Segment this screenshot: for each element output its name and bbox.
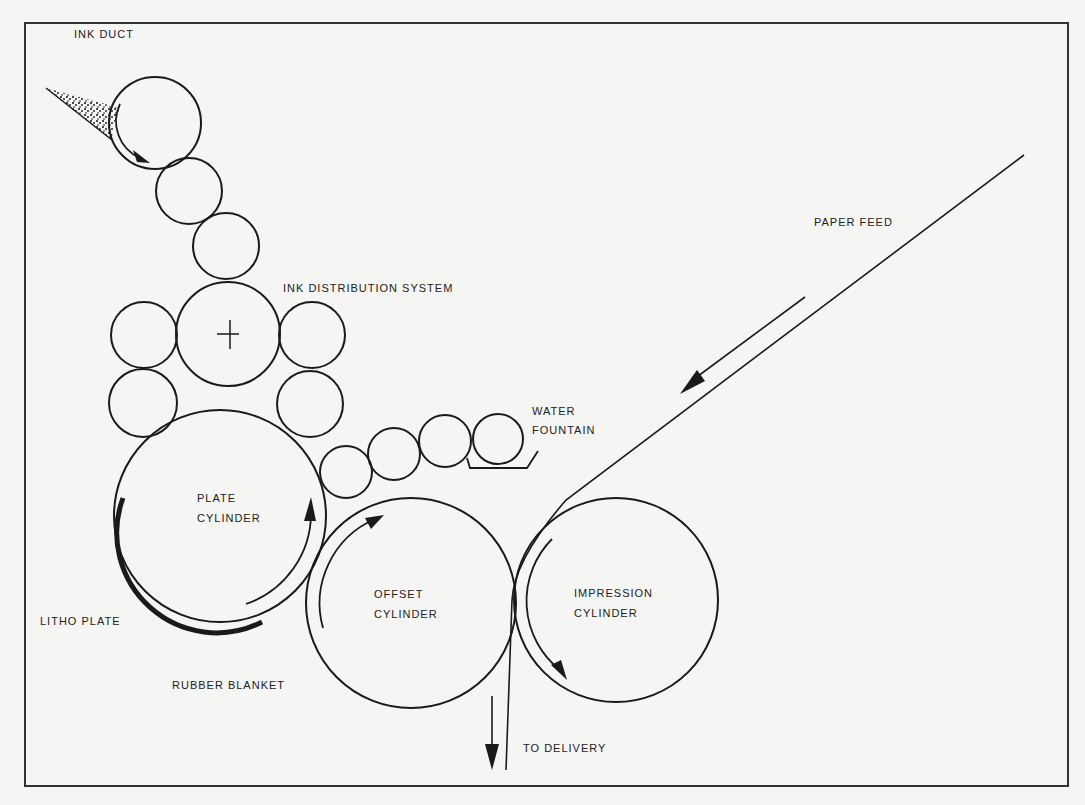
ink-duct-roller (109, 77, 201, 169)
ink-roller-left-lower (109, 369, 177, 437)
water-roller-2 (368, 428, 420, 480)
label-ink-duct: INK DUCT (74, 26, 134, 42)
arrowhead-icon (485, 744, 499, 770)
label-water-fountain-2: FOUNTAIN (532, 422, 595, 438)
water-roller-3 (419, 415, 471, 467)
label-plate-cylinder-2: CYLINDER (197, 510, 261, 526)
impression-rotation-arrow-icon (527, 539, 560, 670)
arrowhead-icon (304, 497, 316, 521)
ink-roller-left-upper (111, 302, 177, 368)
offset-cylinder (306, 498, 516, 708)
label-to-delivery: TO DELIVERY (523, 740, 606, 756)
ink-duct-rotation-arrow-icon (116, 104, 140, 158)
label-offset-cylinder-2: CYLINDER (374, 606, 438, 622)
ink-roller-3 (193, 213, 259, 279)
ink-roller-2 (156, 158, 222, 224)
offset-rotation-arrow-icon (320, 519, 375, 628)
ink-roller-right-upper (279, 302, 345, 368)
label-paper-feed: PAPER FEED (814, 214, 893, 230)
label-impression-cylinder-2: CYLINDER (574, 605, 638, 621)
label-rubber-blanket: RUBBER BLANKET (172, 677, 285, 693)
water-roller-1 (320, 446, 372, 498)
label-offset-cylinder-1: OFFSET (374, 586, 423, 602)
label-litho-plate: LITHO PLATE (40, 613, 120, 629)
water-roller-4 (473, 414, 523, 464)
label-ink-distribution-system: INK DISTRIBUTION SYSTEM (283, 280, 453, 296)
label-impression-cylinder-1: IMPRESSION (574, 585, 653, 601)
ink-roller-right-lower (277, 371, 343, 437)
paper-path (506, 155, 1024, 770)
arrowhead-icon (365, 515, 384, 529)
label-water-fountain-1: WATER (532, 403, 576, 419)
arrowhead-icon (133, 150, 150, 163)
paper-feed-arrow-icon (690, 297, 805, 382)
label-plate-cylinder-1: PLATE (197, 490, 236, 506)
ink-drum-center-cross-icon (217, 320, 239, 349)
